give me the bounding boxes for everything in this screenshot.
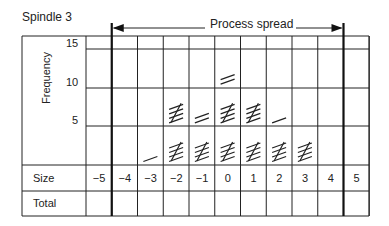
size-cell: −3 [138,172,164,184]
tally-mark [143,157,157,162]
y-tick-5: 5 [72,114,78,126]
tally-mark [195,143,209,148]
tally-mark [221,143,235,148]
size-cell: 4 [318,172,344,184]
tally-mark [246,104,260,109]
tally-mark [272,118,286,123]
size-row-label: Size [33,172,54,184]
size-cell: 1 [241,172,267,184]
tally-mark [221,104,235,109]
size-cell: 0 [215,172,241,184]
tally-mark [195,118,209,123]
y-axis-label: Frequency [40,52,52,104]
size-cell: 2 [266,172,292,184]
size-cell: −2 [163,172,189,184]
tally-mark [169,104,183,109]
tally-mark [221,79,235,84]
size-cell: 3 [292,172,318,184]
size-cell: −4 [112,172,138,184]
tally-mark [195,113,209,118]
arrowhead-left [113,24,124,32]
arrowhead-right [332,24,343,32]
size-cell: −5 [86,172,112,184]
tally-mark [221,75,235,80]
tally-mark [246,143,260,148]
total-row-label: Total [33,197,56,209]
size-cell: −1 [189,172,215,184]
tally-mark [272,143,286,148]
tally-mark [298,143,312,148]
tally-mark [169,143,183,148]
y-tick-10: 10 [66,76,78,88]
size-cell: 5 [344,172,370,184]
tally-sheet-grid [0,0,389,226]
process-spread-label: Process spread [207,17,296,31]
y-tick-15: 15 [66,37,78,49]
